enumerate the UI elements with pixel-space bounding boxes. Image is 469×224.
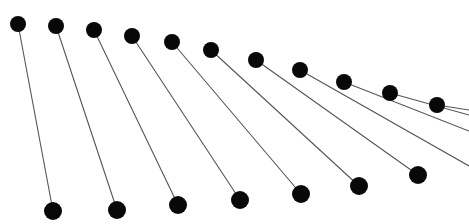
pendulum-pivot — [336, 74, 352, 90]
pendulum-pivot — [203, 42, 219, 58]
pendulum-bob — [350, 177, 368, 195]
pendulum-pivot — [382, 85, 398, 101]
pendulum-bob — [108, 201, 126, 219]
pendulum-bob — [44, 202, 62, 220]
pendulum-bob — [169, 196, 187, 214]
pendulum-bob — [231, 191, 249, 209]
pendulum-pivot — [164, 34, 180, 50]
pendulum-pivot — [10, 16, 26, 32]
pendulum-bob — [409, 166, 427, 184]
pendulum-pivot — [124, 28, 140, 44]
pendulum-pivot — [248, 52, 264, 68]
pendulum-pivot — [86, 22, 102, 38]
figure-background — [0, 0, 469, 224]
pendulum-pivot — [292, 62, 308, 78]
pendulum-pivot — [429, 97, 445, 113]
pendulum-pivot — [48, 18, 64, 34]
figure-canvas — [0, 0, 469, 224]
pendulum-wave-figure — [0, 0, 469, 224]
pendulum-bob — [292, 185, 310, 203]
